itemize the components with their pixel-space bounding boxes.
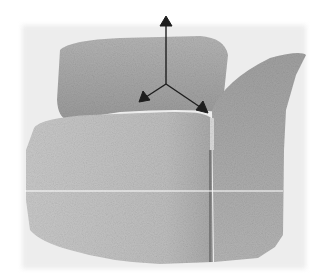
right-armrest [212,53,306,262]
axis-up-arrowhead-icon [160,16,172,26]
seat-cushion [26,112,213,264]
armchair-scan-scene [0,0,322,279]
seat-armrest-gap [210,118,214,150]
armchair-render [0,0,322,279]
seat-armrest-seam [209,150,212,262]
